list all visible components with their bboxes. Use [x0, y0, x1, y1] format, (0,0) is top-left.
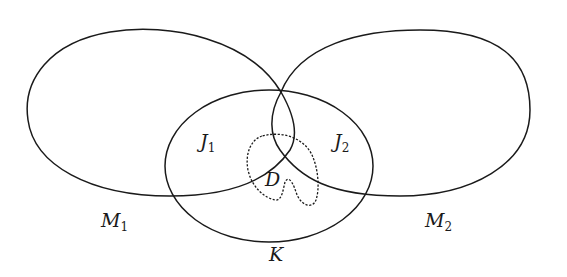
- curve-m2: [272, 30, 530, 196]
- venn-diagram: J1 J2 D M1 M2 K: [0, 0, 567, 277]
- curve-d: [247, 134, 318, 205]
- curve-k: [165, 90, 373, 242]
- label-d: D: [265, 170, 280, 189]
- curve-m1: [27, 29, 294, 196]
- label-j1: J1: [200, 132, 215, 154]
- diagram-canvas: [0, 0, 567, 277]
- label-m1: M1: [101, 211, 128, 233]
- label-j2: J2: [334, 132, 349, 154]
- label-m2: M2: [425, 211, 452, 233]
- label-k: K: [269, 245, 283, 264]
